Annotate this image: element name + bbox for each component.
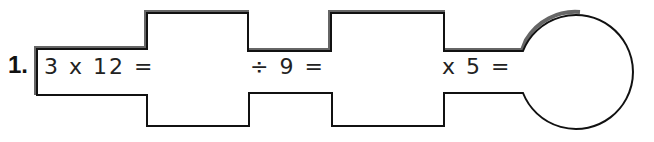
answer-blank-1[interactable] — [170, 50, 240, 90]
problem-number: 1. — [8, 51, 28, 79]
expression-step-3: x 5 = — [442, 54, 511, 79]
expression-step-2: ÷ 9 = — [250, 54, 325, 79]
expression-step-1: 3 x 12 = — [44, 54, 154, 79]
answer-circle[interactable] — [545, 40, 620, 100]
answer-blank-2[interactable] — [340, 50, 435, 90]
